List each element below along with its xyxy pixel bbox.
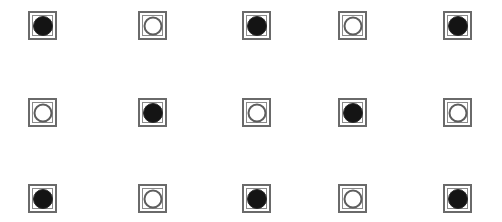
hollow-circle-icon	[343, 189, 362, 208]
filled-circle-icon	[247, 16, 267, 36]
hollow-circle-icon	[448, 103, 467, 122]
hollow-circle-icon	[143, 189, 162, 208]
hollow-circle-icon	[343, 16, 362, 35]
grid-cell-r3-c3	[242, 184, 271, 213]
filled-circle-icon	[33, 189, 53, 209]
grid-cell-r3-c2	[138, 184, 167, 213]
filled-circle-icon	[343, 103, 363, 123]
filled-circle-icon	[448, 189, 468, 209]
hollow-circle-icon	[33, 103, 52, 122]
hollow-circle-icon	[143, 16, 162, 35]
grid-cell-r2-c4	[338, 98, 367, 127]
filled-circle-icon	[448, 16, 468, 36]
hollow-circle-icon	[247, 103, 266, 122]
filled-circle-icon	[33, 16, 53, 36]
grid-cell-r1-c4	[338, 11, 367, 40]
grid-cell-r2-c3	[242, 98, 271, 127]
filled-circle-icon	[143, 103, 163, 123]
grid-cell-r3-c1	[28, 184, 57, 213]
grid-cell-r3-c5	[443, 184, 472, 213]
grid-cell-r1-c3	[242, 11, 271, 40]
grid-cell-r1-c1	[28, 11, 57, 40]
grid-cell-r2-c1	[28, 98, 57, 127]
grid-cell-r2-c5	[443, 98, 472, 127]
grid-cell-r1-c5	[443, 11, 472, 40]
grid-cell-r3-c4	[338, 184, 367, 213]
grid-cell-r1-c2	[138, 11, 167, 40]
grid-cell-r2-c2	[138, 98, 167, 127]
filled-circle-icon	[247, 189, 267, 209]
